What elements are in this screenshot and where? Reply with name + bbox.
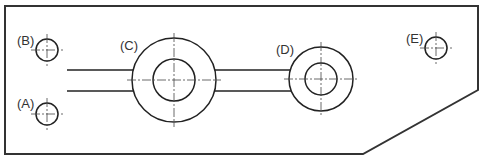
part-outline	[5, 6, 478, 154]
technical-drawing: (A) (B) (C) (D) (E)	[0, 0, 484, 158]
label-c: (C)	[120, 38, 138, 53]
features	[31, 32, 452, 130]
label-b: (B)	[17, 33, 34, 48]
slot-lines	[67, 70, 291, 91]
label-a: (A)	[17, 96, 34, 111]
label-d: (D)	[276, 42, 294, 57]
label-e: (E)	[406, 31, 423, 46]
